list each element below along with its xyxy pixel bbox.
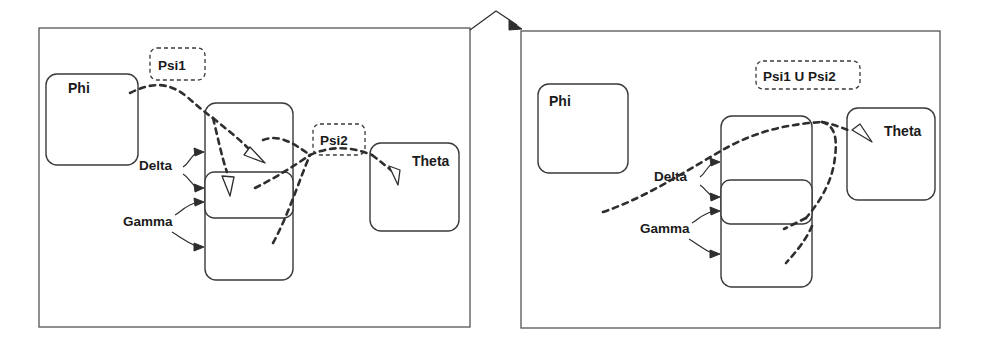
right-theta-label: Theta — [884, 123, 922, 139]
right-gamma-arrow-1-head — [710, 207, 720, 215]
right-delta-edge: Delta — [654, 158, 720, 201]
left-phi-label: Phi — [68, 80, 90, 96]
right-psi-union-label: Psi1 U Psi2 — [763, 69, 836, 84]
left-delta-arrow-1-head — [194, 148, 204, 156]
right-delta-arrow-1-head — [710, 158, 720, 166]
left-panel: Phi Theta Psi1 Psi2 Delta — [39, 28, 470, 327]
left-theta-label: Theta — [412, 153, 450, 169]
left-delta-label: Delta — [139, 158, 173, 173]
right-psi-union-set: Psi1 U Psi2 — [756, 61, 860, 89]
right-gamma-label: Gamma — [640, 221, 690, 236]
left-psi1-flow-main — [130, 85, 213, 118]
left-delta-edge: Delta — [139, 148, 204, 192]
left-center-stack[interactable] — [205, 103, 293, 280]
panel-transition-arrowhead — [509, 20, 522, 30]
left-phi-node[interactable]: Phi — [46, 74, 138, 165]
left-gamma-arrow-2-head — [194, 243, 204, 251]
left-phi-box[interactable] — [46, 74, 138, 165]
left-gamma-edge: Gamma — [123, 198, 204, 251]
left-gamma-arrow-1-head — [194, 198, 204, 206]
right-phi-node[interactable]: Phi — [538, 84, 628, 173]
right-center-stack[interactable] — [721, 116, 812, 287]
left-theta-node[interactable]: Theta — [370, 143, 459, 231]
left-gamma-label: Gamma — [123, 214, 173, 229]
right-phi-label: Phi — [549, 93, 571, 109]
left-stack-middle-segment[interactable] — [205, 172, 293, 218]
right-gamma-arrow-2-head — [710, 250, 720, 258]
left-psi1-label: Psi1 — [158, 58, 186, 73]
left-delta-arrow-2-head — [194, 184, 204, 192]
left-psi1-set: Psi1 — [150, 48, 205, 80]
right-panel: Phi Theta Psi1 U Psi2 Delta Gamma — [521, 31, 940, 328]
diagram-svg: Phi Theta Psi1 Psi2 Delta — [0, 0, 982, 351]
right-stack-middle-segment[interactable] — [721, 180, 812, 224]
right-theta-inbound-flow — [822, 122, 848, 130]
left-psi2-label: Psi2 — [320, 133, 348, 148]
right-theta-node[interactable]: Theta — [847, 108, 935, 200]
right-gamma-edge: Gamma — [640, 207, 720, 258]
diagram-canvas: Phi Theta Psi1 Psi2 Delta — [0, 0, 982, 351]
right-theta-box[interactable] — [847, 108, 935, 200]
right-delta-arrow-2-head — [710, 193, 720, 201]
panel-transition-arrow — [470, 11, 522, 30]
